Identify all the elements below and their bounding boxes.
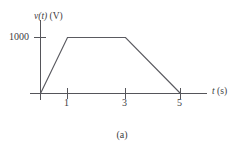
y-tick-label-1000: 1000 <box>9 32 29 42</box>
y-axis-title: v(t) (V) <box>34 12 63 22</box>
x-axis-title: t (s) <box>212 87 227 97</box>
x-axis-title-unit: (s) <box>217 86 227 96</box>
figure-container: v(t) (V) t (s) 1000 1 3 5 (a) <box>0 0 244 152</box>
x-axis-title-variable: t <box>212 86 215 96</box>
y-axis-title-variable: v(t) <box>34 11 47 21</box>
figure-caption: (a) <box>0 130 244 140</box>
waveform-trace <box>41 38 181 94</box>
x-tick-label-5: 5 <box>177 98 182 108</box>
y-axis-title-unit: (V) <box>50 11 63 21</box>
x-tick-label-1: 1 <box>64 98 69 108</box>
x-tick-label-3: 3 <box>122 98 127 108</box>
